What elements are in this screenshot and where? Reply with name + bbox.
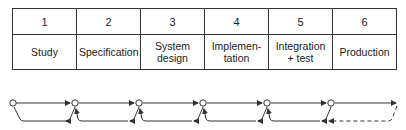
node-3 <box>136 100 142 106</box>
feedback-arrow-2-to-1 <box>76 109 128 121</box>
node-4 <box>200 100 206 106</box>
node-6 <box>328 100 334 106</box>
node-5 <box>264 100 270 106</box>
feedback-arrow-3-to-2 <box>140 109 192 121</box>
process-flow-diagram <box>0 0 406 130</box>
feedback-connector <box>66 107 75 121</box>
node-2 <box>72 100 78 106</box>
feedback-arrow-5-to-4 <box>268 109 320 121</box>
feedback-arrow-6-to-5-dashed <box>329 106 397 121</box>
feedback-arrow-4-to-3 <box>204 109 256 121</box>
feedback-loop-start <box>14 107 66 121</box>
node-1 <box>10 100 16 106</box>
